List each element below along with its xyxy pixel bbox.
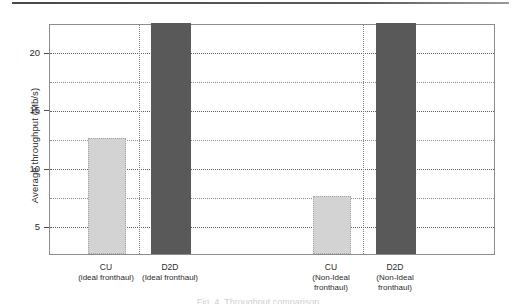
bar-d2d-ideal[interactable] [151,23,191,254]
x-label-name: D2D [130,262,210,273]
y-tick-label-5: 5 [14,222,40,232]
gridline-20 [50,53,494,54]
gridline-17-5 [50,82,494,83]
y-tick-label-10: 10 [14,164,40,174]
y-tick-label-15: 15 [14,105,40,115]
x-label-d2d-nonideal: D2D (Non-Ideal fronthaul) [355,262,435,294]
figure-caption-sliver: Fig. 4. Throughput comparison [128,297,388,304]
x-label-sub-line1: (Non-Ideal [355,273,435,284]
group-divider-2 [363,25,364,254]
y-axis-tick-group: 20 15 10 5 [0,0,49,304]
bar-cu-ideal[interactable] [88,138,126,254]
bar-d2d-nonideal[interactable] [376,23,416,254]
plot-area [49,24,495,255]
x-label-sub-line2: fronthaul) [355,283,435,294]
x-label-sub: (Ideal fronthaul) [130,273,210,284]
group-divider-1 [139,25,140,254]
bar-cu-nonideal[interactable] [313,196,351,254]
x-label-name: D2D [355,262,435,273]
x-label-d2d-ideal: D2D (Ideal fronthaul) [130,262,210,283]
y-tick-label-20: 20 [14,48,40,58]
bar-chart-figure: Average throughput (Mb/s) 20 15 10 5 [0,0,512,304]
gridline-15 [50,111,494,112]
